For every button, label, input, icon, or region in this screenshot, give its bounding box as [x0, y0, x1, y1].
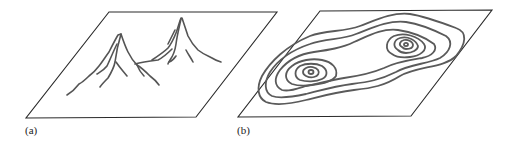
mountain-sketch: [67, 18, 221, 95]
contour-line-6b: [400, 40, 413, 49]
panel-a-label: (a): [25, 124, 37, 136]
panel-b-label: (b): [237, 124, 250, 136]
left-peak-gully: [116, 62, 127, 76]
left-peak-outline: [67, 34, 159, 95]
contour-line-6: [303, 67, 319, 77]
contour-lines: [259, 14, 465, 104]
panel-b-contour-map: [238, 10, 492, 117]
figure-canvas: [0, 0, 515, 146]
right-peak-gully: [186, 50, 193, 62]
saddle-line: [135, 49, 172, 64]
left-peak-ridge-2: [97, 44, 117, 74]
panel-a-plane: [26, 12, 277, 118]
contour-peak-right: [404, 43, 408, 46]
panel-a-terrain: [26, 12, 277, 118]
contour-peak-left: [309, 70, 314, 74]
right-peak-outline: [152, 18, 221, 62]
